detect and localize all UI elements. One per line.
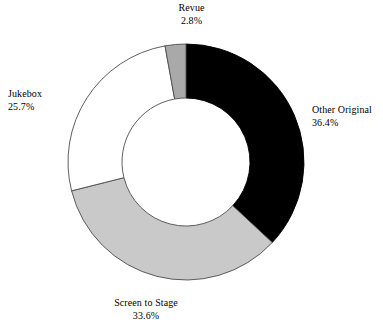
slice-label-revue: Revue 2.8%	[0, 2, 383, 27]
slice-label-screen-to-stage-value: 33.6%	[98, 310, 194, 323]
slice-label-screen-to-stage-name: Screen to Stage	[98, 297, 194, 310]
donut-chart: Revue 2.8% Other Original 36.4% Jukebox …	[0, 0, 383, 332]
slice-label-jukebox-name: Jukebox	[8, 88, 42, 101]
slice-label-other-original-value: 36.4%	[312, 117, 372, 130]
slice-label-jukebox: Jukebox 25.7%	[8, 88, 42, 113]
donut-slice-group	[68, 44, 304, 280]
slice-label-other-original-name: Other Original	[312, 104, 372, 117]
slice-label-revue-name: Revue	[0, 2, 383, 15]
slice-label-screen-to-stage: Screen to Stage 33.6%	[98, 297, 194, 322]
slice-label-jukebox-value: 25.7%	[8, 101, 42, 114]
slice-label-revue-value: 2.8%	[0, 15, 383, 28]
donut-chart-svg	[0, 0, 383, 332]
slice-label-other-original: Other Original 36.4%	[312, 104, 372, 129]
donut-slice-other-original	[186, 44, 304, 243]
donut-slice-jukebox	[68, 46, 175, 191]
